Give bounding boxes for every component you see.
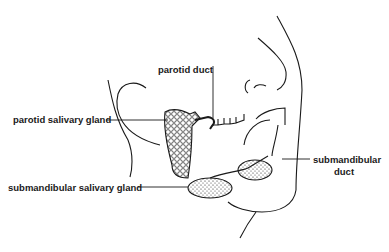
label-submandibular-duct-line2: duct (334, 166, 354, 177)
label-parotid-duct: parotid duct (158, 64, 213, 75)
face-outline (228, 16, 302, 212)
tongue (244, 120, 270, 145)
parotid-gland (165, 110, 200, 178)
label-submandibular-gland: submandibular salivary gland (8, 182, 142, 193)
ear-outer (117, 83, 160, 145)
parotid-duct (195, 117, 214, 129)
salivary-gland-diagram (0, 0, 389, 252)
nose (258, 38, 286, 90)
nostril (245, 80, 266, 93)
lower-jaw (272, 125, 278, 156)
label-submandibular-duct-line1: submandibular (313, 154, 381, 165)
teeth-upper (212, 114, 244, 125)
submandibular-gland (188, 178, 232, 198)
label-parotid-gland: parotid salivary gland (13, 114, 111, 125)
chin-neck (240, 212, 256, 238)
